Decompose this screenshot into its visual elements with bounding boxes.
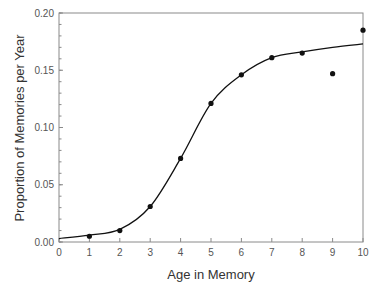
x-tick-label: 6 [239, 247, 245, 258]
data-point [239, 72, 244, 77]
y-tick-label: 0.05 [35, 179, 55, 190]
y-axis-title: Proportion of Memories per Year [12, 34, 27, 222]
x-tick-label: 0 [56, 247, 62, 258]
fitted-curve [59, 44, 363, 239]
y-tick-label: 0.00 [35, 237, 55, 248]
data-point [148, 204, 153, 209]
x-axis-ticks: 012345678910 [56, 238, 369, 258]
data-point [87, 234, 92, 239]
chart: 0.000.050.100.150.20 012345678910 Age in… [0, 0, 375, 294]
data-point [300, 50, 305, 55]
data-point [117, 228, 122, 233]
x-tick-label: 9 [330, 247, 336, 258]
x-tick-label: 2 [117, 247, 123, 258]
y-tick-label: 0.20 [35, 8, 55, 19]
x-axis-title: Age in Memory [167, 267, 255, 282]
data-point [330, 71, 335, 76]
x-tick-label: 1 [87, 247, 93, 258]
x-tick-label: 10 [357, 247, 369, 258]
y-tick-label: 0.15 [35, 65, 55, 76]
x-tick-label: 4 [178, 247, 184, 258]
x-tick-label: 8 [299, 247, 305, 258]
data-point [269, 55, 274, 60]
data-point [360, 28, 365, 33]
x-tick-label: 5 [208, 247, 214, 258]
data-points [87, 28, 366, 239]
y-tick-label: 0.10 [35, 122, 55, 133]
data-point [178, 156, 183, 161]
plot-frame [59, 13, 363, 242]
x-tick-label: 7 [269, 247, 275, 258]
data-point [208, 101, 213, 106]
x-tick-label: 3 [147, 247, 153, 258]
